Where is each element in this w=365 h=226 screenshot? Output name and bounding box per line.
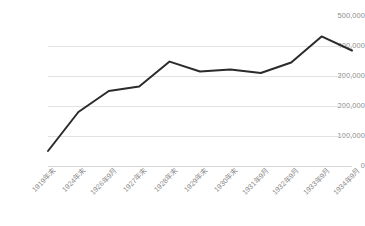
series-line bbox=[48, 16, 352, 166]
x-tick-label: 1928年末 bbox=[152, 167, 178, 193]
x-tick-label: 1933年9月 bbox=[302, 167, 331, 196]
line-chart: 500,000 400,000 300,000 200,000 100,000 … bbox=[0, 0, 365, 226]
x-tick-label: 1932年9月 bbox=[271, 167, 300, 196]
x-tick-label: 1931年9月 bbox=[241, 167, 270, 196]
x-tick-label: 1926年9月 bbox=[89, 167, 118, 196]
x-tick-label: 1919年末 bbox=[31, 167, 57, 193]
x-tick-label: 1929年末 bbox=[183, 167, 209, 193]
x-tick-label: 1927年末 bbox=[122, 167, 148, 193]
x-tick-label: 1934年9月 bbox=[332, 167, 361, 196]
x-axis: 1919年末 1924年末 1926年9月 1927年末 1928年末 1929… bbox=[48, 167, 352, 226]
plot-area bbox=[48, 16, 352, 166]
x-tick-label: 1930年末 bbox=[213, 167, 239, 193]
x-tick-label: 1924年末 bbox=[61, 167, 87, 193]
